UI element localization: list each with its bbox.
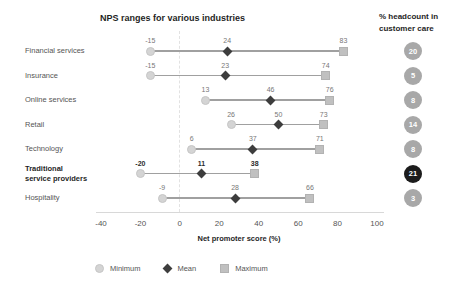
square-legend-icon — [220, 264, 229, 273]
mean-marker[interactable] — [266, 95, 276, 105]
headcount-column-header: % headcount in customer care — [379, 11, 438, 34]
value-label: 6 — [178, 135, 206, 142]
value-label: 24 — [213, 37, 241, 44]
value-label: 76 — [316, 86, 344, 93]
value-label: 46 — [257, 86, 285, 93]
industry-label-line: Insurance — [25, 71, 58, 81]
value-label: -9 — [148, 184, 176, 191]
x-tick-label: -20 — [126, 219, 154, 228]
maximum-marker[interactable] — [250, 169, 259, 178]
value-label: 50 — [264, 111, 292, 118]
minimum-marker[interactable] — [201, 96, 210, 105]
headcount-badge: 8 — [404, 91, 422, 109]
headcount-badge: 5 — [404, 67, 422, 85]
mean-marker[interactable] — [248, 144, 258, 154]
headcount-badge: 20 — [404, 42, 422, 60]
industry-label-line: Financial services — [25, 46, 85, 56]
mean-marker[interactable] — [197, 169, 207, 179]
x-axis-line — [96, 212, 384, 213]
value-label: 38 — [241, 160, 269, 167]
legend: MinimumMeanMaximum — [95, 264, 268, 273]
industry-label: Traditionalservice providers — [25, 164, 87, 183]
diamond-legend-icon — [163, 264, 173, 274]
value-label: 83 — [329, 37, 357, 44]
legend-item-mean: Mean — [164, 264, 196, 273]
minimum-marker[interactable] — [146, 71, 155, 80]
legend-label: Minimum — [110, 264, 140, 273]
industry-label: Technology — [25, 144, 63, 154]
maximum-marker[interactable] — [319, 120, 328, 129]
value-label: 71 — [306, 135, 334, 142]
industry-label: Online services — [25, 95, 76, 105]
x-axis-title: Net promoter score (%) — [101, 234, 377, 243]
mean-marker[interactable] — [230, 193, 240, 203]
value-label: 37 — [239, 135, 267, 142]
industry-label: Financial services — [25, 46, 85, 56]
range-line — [150, 50, 343, 52]
x-tick-label: -40 — [87, 219, 115, 228]
industry-label: Retail — [25, 120, 44, 130]
legend-item-minimum: Minimum — [95, 264, 140, 273]
headcount-badge: 21 — [404, 165, 422, 183]
value-label: -15 — [136, 62, 164, 69]
value-label: -15 — [136, 37, 164, 44]
industry-label: Insurance — [25, 71, 58, 81]
minimum-marker[interactable] — [187, 145, 196, 154]
x-tick-label: 40 — [245, 219, 273, 228]
industry-label-line: Retail — [25, 120, 44, 130]
value-label: 74 — [312, 62, 340, 69]
minimum-marker[interactable] — [136, 169, 145, 178]
value-label: 11 — [188, 160, 216, 167]
industry-label-line: Traditional — [25, 164, 87, 174]
headcount-badge: 3 — [404, 189, 422, 207]
mean-marker[interactable] — [273, 120, 283, 130]
value-label: 28 — [221, 184, 249, 191]
industry-label-line: Online services — [25, 95, 76, 105]
industry-label-line: service providers — [25, 174, 87, 184]
x-tick-label: 100 — [363, 219, 391, 228]
legend-label: Maximum — [235, 264, 268, 273]
chart-title: NPS ranges for various industries — [100, 13, 245, 23]
value-label: 26 — [217, 111, 245, 118]
range-line — [150, 75, 325, 77]
circle-legend-icon — [95, 264, 104, 273]
headcount-badge: 8 — [404, 140, 422, 158]
industry-label-line: Technology — [25, 144, 63, 154]
headcount-badge: 14 — [404, 116, 422, 134]
value-label: 66 — [296, 184, 324, 191]
legend-label: Mean — [177, 264, 196, 273]
minimum-marker[interactable] — [227, 120, 236, 129]
value-label: 73 — [310, 111, 338, 118]
industry-label: Hospitality — [25, 193, 60, 203]
headcount-header-line1: % headcount in — [379, 11, 438, 23]
x-tick-label: 80 — [324, 219, 352, 228]
minimum-marker[interactable] — [146, 47, 155, 56]
headcount-header-line2: customer care — [379, 23, 438, 35]
value-label: 13 — [191, 86, 219, 93]
value-label: -20 — [126, 160, 154, 167]
maximum-marker[interactable] — [325, 96, 334, 105]
legend-item-maximum: Maximum — [220, 264, 268, 273]
nps-range-chart: NPS ranges for various industries % head… — [0, 0, 460, 292]
minimum-marker[interactable] — [158, 194, 167, 203]
zero-gridline — [179, 31, 180, 212]
maximum-marker[interactable] — [315, 145, 324, 154]
x-tick-label: 0 — [166, 219, 194, 228]
mean-marker[interactable] — [220, 71, 230, 81]
x-tick-label: 20 — [205, 219, 233, 228]
maximum-marker[interactable] — [321, 71, 330, 80]
maximum-marker[interactable] — [339, 47, 348, 56]
value-label: 23 — [211, 62, 239, 69]
maximum-marker[interactable] — [305, 194, 314, 203]
industry-label-line: Hospitality — [25, 193, 60, 203]
x-tick-label: 60 — [284, 219, 312, 228]
mean-marker[interactable] — [222, 46, 232, 56]
